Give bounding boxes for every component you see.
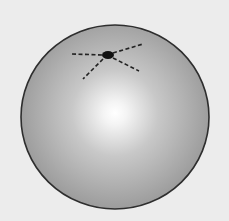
sphere-diagram [0, 0, 229, 221]
point-marker [102, 51, 114, 59]
figure-canvas [0, 0, 229, 221]
